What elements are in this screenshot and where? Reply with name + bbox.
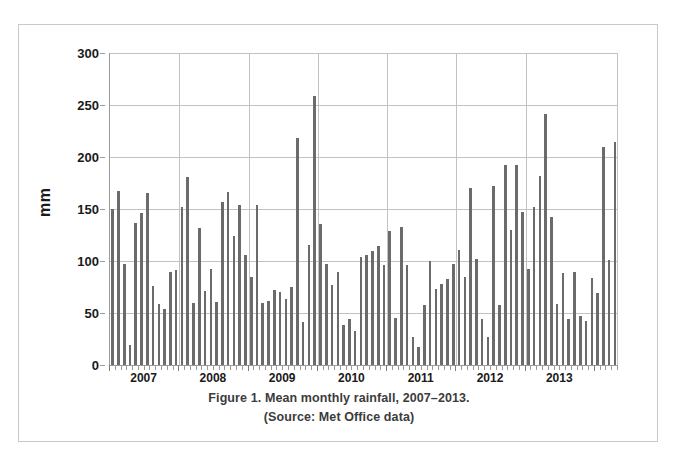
x-tick-mark-month	[328, 365, 329, 370]
bar	[204, 291, 207, 365]
bar	[244, 255, 247, 365]
y-tick-label: 150	[77, 202, 99, 217]
x-tick-mark-month	[588, 365, 589, 370]
bar	[602, 147, 605, 365]
x-tick-mark-month	[230, 365, 231, 370]
x-tick-mark-month	[432, 365, 433, 370]
bar	[585, 321, 588, 365]
x-tick-mark-month	[259, 365, 260, 370]
bar	[313, 96, 316, 365]
x-axis-year-labels: 2007200820092010201120122013	[109, 371, 618, 389]
bar	[210, 269, 213, 365]
x-tick-mark-month	[363, 365, 364, 370]
bar	[186, 177, 189, 365]
x-tick-mark-month	[554, 365, 555, 370]
x-tick-mark-month	[542, 365, 543, 370]
y-tick-mark	[100, 365, 105, 366]
bar	[158, 304, 161, 365]
bar	[360, 257, 363, 365]
bar	[475, 259, 478, 365]
bar	[521, 212, 524, 365]
x-tick-mark-month	[605, 365, 606, 370]
bar	[446, 279, 449, 365]
x-tick-mark-month	[507, 365, 508, 370]
bar	[285, 299, 288, 365]
y-tick-label: 250	[77, 98, 99, 113]
y-tick-mark	[100, 105, 105, 106]
bar	[481, 319, 484, 365]
y-tick-mark	[100, 313, 105, 314]
x-tick-mark-month	[323, 365, 324, 370]
x-tick-mark-month	[305, 365, 306, 370]
x-tick-mark-month	[138, 365, 139, 370]
bar	[487, 337, 490, 365]
x-tick-mark-month	[409, 365, 410, 370]
y-tick-mark	[100, 261, 105, 262]
y-tick-label: 300	[77, 46, 99, 61]
x-tick-mark-month	[340, 365, 341, 370]
bar	[429, 261, 432, 365]
bar	[394, 318, 397, 365]
x-tick-mark-month	[421, 365, 422, 370]
x-tick-mark-month	[132, 365, 133, 370]
y-tick-label: 50	[85, 306, 99, 321]
bar	[267, 301, 270, 365]
bar	[510, 230, 513, 365]
bar	[279, 292, 282, 365]
y-tick-label: 0	[92, 358, 99, 373]
x-tick-mark-month	[496, 365, 497, 370]
x-tick-mark-month	[513, 365, 514, 370]
x-tick-mark-month	[450, 365, 451, 370]
x-tick-mark-month	[236, 365, 237, 370]
bar	[117, 191, 120, 365]
bar	[423, 305, 426, 365]
chart-plot-region: mm 050100150200250300 200720082009201020…	[19, 25, 659, 377]
bar	[337, 272, 340, 365]
bar	[175, 270, 178, 365]
bar	[498, 305, 501, 365]
bar	[464, 277, 467, 365]
x-tick-mark-month	[369, 365, 370, 370]
bar	[134, 223, 137, 365]
bar	[192, 303, 195, 365]
x-tick-mark-month	[213, 365, 214, 370]
bar	[250, 277, 253, 365]
x-tick-mark-month	[582, 365, 583, 370]
x-tick-mark-month	[126, 365, 127, 370]
bar	[296, 138, 299, 365]
bar	[492, 186, 495, 365]
bar	[544, 114, 547, 365]
bar	[371, 251, 374, 365]
bar	[342, 325, 345, 365]
x-tick-mark-month	[519, 365, 520, 370]
bar	[412, 337, 415, 365]
x-tick-mark-month	[207, 365, 208, 370]
bar	[140, 213, 143, 365]
bar	[388, 231, 391, 365]
bar	[146, 193, 149, 365]
x-tick-mark-month	[375, 365, 376, 370]
x-tick-mark-month	[438, 365, 439, 370]
x-tick-mark-month	[196, 365, 197, 370]
bar	[308, 245, 311, 365]
bar	[261, 303, 264, 365]
bar	[573, 272, 576, 365]
x-tick-mark-month	[242, 365, 243, 370]
gridline-horizontal	[110, 105, 618, 106]
x-tick-mark-month	[190, 365, 191, 370]
bar	[608, 260, 611, 365]
bar	[417, 347, 420, 365]
bar	[238, 205, 241, 365]
y-tick-label: 200	[77, 150, 99, 165]
bar	[152, 286, 155, 365]
x-tick-mark-month	[611, 365, 612, 370]
x-tick-mark-month	[380, 365, 381, 370]
x-tick-mark-month	[473, 365, 474, 370]
bar	[515, 165, 518, 365]
bar	[406, 265, 409, 365]
caption-line-2: (Source: Met Office data)	[19, 408, 659, 427]
bar	[129, 345, 132, 365]
x-tick-mark-month	[219, 365, 220, 370]
bar	[273, 290, 276, 365]
figure-frame: mm 050100150200250300 200720082009201020…	[18, 24, 658, 442]
